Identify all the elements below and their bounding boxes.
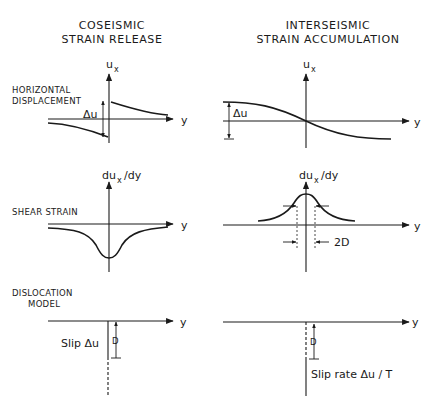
svg-text:/dy: /dy [321, 169, 339, 182]
svg-text:DISLOCATION: DISLOCATION [12, 288, 73, 298]
plot-coseismic-shear-strain: du x /dy y [48, 169, 188, 272]
plot-coseismic-dislocation: y D Slip Δu [48, 316, 187, 396]
svg-text:D: D [310, 337, 317, 347]
svg-text:COSEISMIC: COSEISMIC [79, 19, 145, 32]
svg-text:MODEL: MODEL [28, 299, 60, 309]
svg-text:Δu: Δu [83, 108, 98, 121]
svg-text:y: y [180, 316, 187, 329]
row-label-shear-strain: SHEAR STRAIN [12, 207, 78, 217]
svg-text:y: y [414, 220, 421, 233]
label-2d: 2D [334, 236, 349, 249]
svg-text:/dy: /dy [124, 169, 142, 182]
svg-text:y: y [412, 316, 419, 329]
svg-text:x: x [117, 176, 122, 185]
svg-text:DISPLACEMENT: DISPLACEMENT [12, 96, 82, 106]
svg-text:y: y [414, 116, 421, 129]
row-label-dislocation-model: DISLOCATION MODEL [12, 288, 73, 309]
svg-text:SHEAR STRAIN: SHEAR STRAIN [12, 207, 78, 217]
svg-text:du: du [299, 169, 313, 182]
diagram-canvas: COSEISMIC STRAIN RELEASE INTERSEISMIC ST… [0, 0, 434, 406]
svg-text:x: x [114, 65, 119, 74]
displacement-curve-left [48, 123, 108, 137]
svg-text:y: y [181, 219, 188, 232]
svg-text:HORIZONTAL: HORIZONTAL [12, 85, 70, 95]
strain-curve-trough [48, 227, 168, 258]
label-slip-rate: Slip rate Δu / T [311, 368, 393, 381]
displacement-curve-right [111, 102, 168, 115]
plot-interseismic-dislocation: y D Slip rate Δu / T [223, 316, 419, 396]
svg-text:du: du [102, 169, 116, 182]
header-interseismic: INTERSEISMIC STRAIN ACCUMULATION [257, 19, 400, 46]
plot-interseismic-displacement: u x y Δu [223, 58, 421, 148]
svg-text:y: y [181, 114, 188, 127]
svg-text:D: D [112, 336, 119, 346]
label-slip-coseismic: Slip Δu [61, 337, 99, 350]
row-label-horizontal-displacement: HORIZONTAL DISPLACEMENT [12, 85, 82, 106]
svg-text:u: u [106, 58, 113, 71]
svg-text:x: x [311, 65, 316, 74]
svg-text:u: u [303, 58, 310, 71]
svg-text:STRAIN ACCUMULATION: STRAIN ACCUMULATION [257, 33, 400, 46]
svg-text:x: x [314, 176, 319, 185]
svg-text:INTERSEISMIC: INTERSEISMIC [286, 19, 371, 32]
header-coseismic: COSEISMIC STRAIN RELEASE [62, 19, 163, 46]
svg-text:STRAIN RELEASE: STRAIN RELEASE [62, 33, 163, 46]
plot-interseismic-shear-strain: du x /dy y 2D [223, 169, 421, 272]
svg-text:Δu: Δu [233, 107, 248, 120]
